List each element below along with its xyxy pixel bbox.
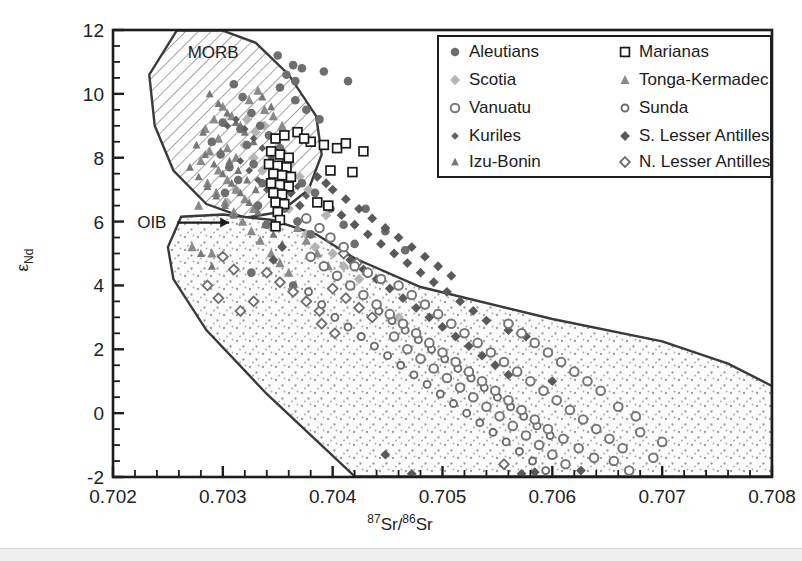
data-point	[273, 51, 282, 60]
data-point	[341, 139, 350, 148]
data-point	[243, 141, 252, 150]
data-point	[636, 428, 645, 437]
data-point	[522, 431, 531, 440]
data-point	[503, 438, 510, 445]
page-bottom-bar	[0, 548, 802, 561]
data-point	[473, 339, 482, 348]
data-point	[247, 109, 256, 118]
legend-item-n-lesser-antilles[interactable]: N. Lesser Antilles	[620, 152, 770, 171]
data-point	[350, 240, 359, 249]
data-point	[300, 134, 309, 143]
data-point	[504, 396, 513, 405]
data-point	[315, 224, 324, 233]
data-point	[530, 415, 539, 424]
data-point	[451, 358, 460, 367]
legend-marker-icon	[621, 48, 630, 57]
x-tick-label: 0.708	[748, 486, 796, 507]
data-point	[377, 275, 386, 284]
data-point	[535, 441, 544, 450]
sr-element-1: Sr	[381, 515, 398, 534]
data-point	[478, 377, 487, 386]
data-point	[399, 319, 408, 328]
y-tick-label: 4	[93, 275, 104, 296]
data-point	[390, 332, 399, 341]
nd-subscript: Nd	[22, 249, 36, 264]
data-point	[438, 348, 447, 357]
data-point	[590, 454, 599, 463]
y-tick-label: 8	[93, 148, 104, 169]
data-point	[230, 80, 239, 89]
y-tick-label: 0	[93, 403, 104, 424]
data-point	[271, 198, 280, 207]
data-point	[516, 448, 523, 455]
legend-label: Scotia	[469, 70, 517, 89]
x-tick-label: 0.705	[419, 486, 467, 507]
data-point	[359, 291, 368, 300]
data-point	[469, 393, 478, 402]
data-point	[625, 466, 634, 475]
data-point	[443, 374, 452, 383]
legend-label: S. Lesser Antilles	[639, 126, 769, 145]
data-point	[526, 377, 535, 386]
legend-label: Vanuatu	[469, 98, 531, 117]
data-point	[306, 230, 315, 239]
data-point	[410, 371, 417, 378]
data-point	[319, 141, 328, 150]
data-point	[311, 189, 320, 198]
data-point	[570, 367, 579, 376]
legend-item-tonga-kermadec[interactable]: Tonga-Kermadec	[620, 70, 769, 89]
data-point	[412, 329, 421, 338]
y-tick-label: -2	[87, 467, 104, 488]
x-tick-label: 0.703	[199, 486, 247, 507]
data-point	[487, 348, 496, 357]
legend-item-s-lesser-antilles[interactable]: S. Lesser Antilles	[620, 126, 769, 145]
data-point	[592, 425, 601, 434]
data-point	[339, 243, 348, 252]
data-point	[306, 252, 315, 261]
data-point	[574, 444, 583, 453]
data-point	[618, 444, 627, 453]
x-tick-label: 0.707	[638, 486, 686, 507]
data-point	[450, 400, 457, 407]
legend-marker-icon	[451, 48, 460, 57]
data-point	[429, 364, 438, 373]
data-point	[482, 402, 491, 411]
data-point	[333, 272, 342, 281]
data-point	[208, 137, 217, 146]
data-point	[302, 106, 311, 115]
data-point	[583, 377, 592, 386]
data-point	[333, 144, 342, 153]
data-point	[267, 179, 276, 188]
legend-label: Marianas	[639, 42, 709, 61]
data-point	[345, 323, 352, 330]
data-point	[437, 390, 444, 397]
data-point	[465, 367, 474, 376]
data-point	[557, 358, 566, 367]
data-point	[269, 169, 278, 178]
data-point	[331, 314, 338, 321]
data-point	[265, 160, 274, 169]
data-point	[364, 268, 373, 277]
data-point	[610, 457, 619, 466]
data-point	[559, 434, 568, 443]
legend-label: Tonga-Kermadec	[639, 70, 769, 89]
data-point	[544, 348, 553, 357]
data-point	[271, 134, 280, 143]
data-point	[249, 160, 258, 169]
data-point	[596, 386, 605, 395]
x-tick-label: 0.704	[309, 486, 357, 507]
data-point	[358, 333, 365, 340]
data-point	[320, 262, 329, 271]
x-tick-label: 0.706	[529, 486, 577, 507]
data-point	[542, 467, 549, 474]
data-point	[289, 61, 298, 70]
data-point	[447, 319, 456, 328]
data-point	[504, 319, 513, 328]
data-point	[315, 115, 324, 124]
data-point	[291, 96, 300, 105]
legend-label: N. Lesser Antilles	[639, 152, 770, 171]
legend-label: Izu-Bonin	[469, 152, 541, 171]
data-point	[348, 168, 357, 177]
data-point	[425, 339, 434, 348]
data-point	[282, 70, 291, 79]
